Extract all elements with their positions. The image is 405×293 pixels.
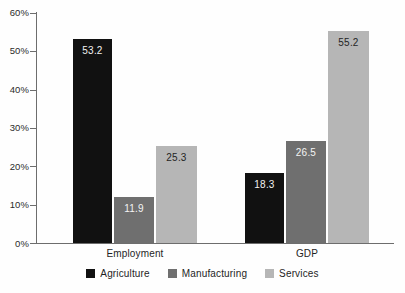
legend-item-services[interactable]: Services bbox=[265, 268, 319, 279]
bar-group-gdp: 18.3 26.5 55.2 bbox=[245, 13, 369, 243]
y-axis-labels: 60% 50% 40% 30% 20% 10% 0% bbox=[0, 0, 29, 293]
y-tick-label-30: 30% bbox=[1, 123, 29, 132]
legend-swatch-icon bbox=[265, 269, 274, 278]
bar-value-label: 25.3 bbox=[156, 152, 197, 163]
y-axis-line bbox=[36, 12, 37, 244]
y-tick-label-60: 60% bbox=[1, 8, 29, 17]
bar-employment-services[interactable]: 25.3 bbox=[156, 146, 197, 243]
bar-value-label: 18.3 bbox=[245, 179, 284, 190]
y-tick-label-20: 20% bbox=[1, 162, 29, 171]
x-tick-label-employment: Employment bbox=[73, 248, 197, 259]
y-tick-label-50: 50% bbox=[1, 46, 29, 55]
legend-swatch-icon bbox=[168, 269, 177, 278]
bar-chart: 60% 50% 40% 30% 20% 10% 0% 53.2 11.9 25.… bbox=[0, 0, 405, 293]
bar-employment-agriculture[interactable]: 53.2 bbox=[73, 39, 112, 243]
bar-value-label: 26.5 bbox=[286, 147, 326, 158]
legend-item-manufacturing[interactable]: Manufacturing bbox=[168, 268, 247, 279]
x-axis-line bbox=[36, 243, 394, 244]
bar-group-employment: 53.2 11.9 25.3 bbox=[73, 13, 197, 243]
y-tick-label-10: 10% bbox=[1, 200, 29, 209]
legend-swatch-icon bbox=[86, 269, 95, 278]
y-tick-label-0: 0% bbox=[1, 239, 29, 248]
bar-value-label: 55.2 bbox=[328, 37, 369, 48]
bar-value-label: 11.9 bbox=[114, 203, 154, 214]
chart-legend: Agriculture Manufacturing Services bbox=[0, 268, 405, 279]
bar-gdp-agriculture[interactable]: 18.3 bbox=[245, 173, 284, 243]
legend-label: Agriculture bbox=[100, 268, 149, 279]
bar-employment-manufacturing[interactable]: 11.9 bbox=[114, 197, 154, 243]
bar-value-label: 53.2 bbox=[73, 45, 112, 56]
bar-gdp-manufacturing[interactable]: 26.5 bbox=[286, 141, 326, 243]
legend-label: Services bbox=[279, 268, 319, 279]
x-tick-label-gdp: GDP bbox=[245, 248, 369, 259]
y-tick-label-40: 40% bbox=[1, 85, 29, 94]
bar-gdp-services[interactable]: 55.2 bbox=[328, 31, 369, 243]
legend-item-agriculture[interactable]: Agriculture bbox=[86, 268, 149, 279]
legend-label: Manufacturing bbox=[182, 268, 247, 279]
